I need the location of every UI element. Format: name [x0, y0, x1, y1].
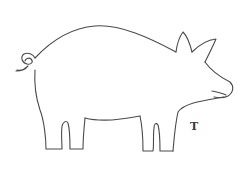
pig-back-legs — [35, 70, 85, 149]
pig-mouth — [212, 91, 226, 95]
pig-chest — [173, 97, 224, 151]
pig-tail — [16, 53, 35, 71]
pig-belly — [85, 116, 140, 120]
pig-ear-front — [192, 39, 216, 62]
pig-front-leg-right — [140, 116, 173, 151]
pig-ear-back — [176, 32, 192, 52]
figure-label: T — [190, 121, 198, 132]
pig-outline-icon — [0, 0, 247, 172]
pig-back — [35, 26, 176, 58]
pig-drawing-canvas — [0, 0, 247, 172]
